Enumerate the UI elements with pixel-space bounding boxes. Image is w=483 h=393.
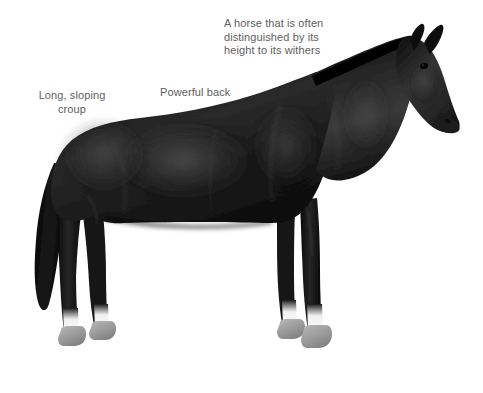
hoof-hind-near	[58, 326, 86, 346]
rump-highlight	[60, 122, 148, 202]
hoof-hind-far	[89, 321, 116, 340]
hoof-front-near	[301, 325, 332, 348]
neck-highlight	[342, 80, 390, 156]
shoulder-highlight	[252, 106, 320, 194]
annotation-withers: A horse that is often distinguished by i…	[224, 17, 364, 58]
cheek-highlight	[410, 64, 438, 104]
annotation-croup: Long, sloping croup	[16, 89, 128, 116]
horse-figure: A horse that is often distinguished by i…	[0, 0, 483, 393]
horse-illustration	[0, 0, 483, 393]
annotation-back: Powerful back	[160, 86, 270, 100]
eye-glint	[422, 64, 424, 66]
hoof-front-far	[277, 319, 305, 339]
